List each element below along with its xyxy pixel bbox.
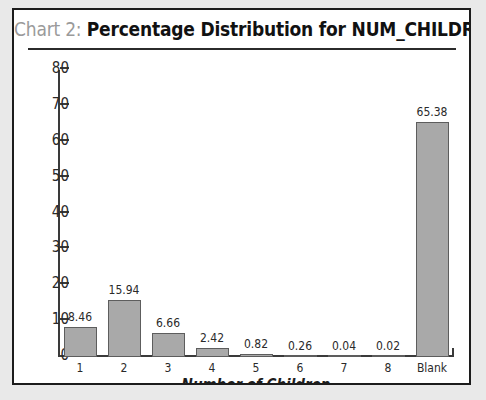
x-axis-label: 3: [146, 361, 190, 375]
bar-value-label: 8.46: [68, 311, 92, 323]
x-axis-label: Blank: [410, 361, 454, 375]
bar-slot: 65.38: [416, 70, 449, 357]
x-axis-label: 8: [366, 361, 410, 375]
bar[interactable]: [328, 355, 361, 357]
bar-value-label: 0.04: [332, 340, 356, 352]
bar-slot: 0.82: [240, 70, 273, 357]
bar-slot: 0.02: [372, 70, 405, 357]
bar-slot: 2.42: [196, 70, 229, 357]
bar[interactable]: [416, 122, 449, 357]
x-axis-label: 1: [58, 361, 102, 375]
x-axis-title: Number of Children: [58, 377, 454, 385]
bar-slot: 8.46: [64, 70, 97, 357]
bar-slot: 6.66: [152, 70, 185, 357]
chart-card: Chart 2: Percentage Distribution for NUM…: [12, 8, 471, 385]
plot-area: 01020304050607080 8.4615.946.662.420.820…: [14, 10, 469, 383]
bar[interactable]: [152, 333, 185, 357]
bar-value-label: 0.26: [288, 340, 312, 352]
bar-value-label: 65.38: [417, 106, 448, 118]
bar-value-label: 0.02: [376, 340, 400, 352]
bar-value-label: 15.94: [109, 284, 140, 296]
bar[interactable]: [240, 354, 273, 357]
bar[interactable]: [196, 348, 229, 357]
bar-value-label: 2.42: [200, 332, 224, 344]
bars-layer: 8.4615.946.662.420.820.260.040.0265.38: [58, 70, 454, 357]
bar[interactable]: [284, 355, 317, 357]
x-axis-label: 2: [102, 361, 146, 375]
bar-value-label: 0.82: [244, 338, 268, 350]
x-axis-label: 5: [234, 361, 278, 375]
bar-slot: 0.04: [328, 70, 361, 357]
bar-slot: 0.26: [284, 70, 317, 357]
x-axis-label: 4: [190, 361, 234, 375]
bar[interactable]: [372, 355, 405, 357]
bar-value-label: 6.66: [156, 317, 180, 329]
bar[interactable]: [108, 300, 141, 357]
x-axis-label: 6: [278, 361, 322, 375]
x-axis-label: 7: [322, 361, 366, 375]
bar-slot: 15.94: [108, 70, 141, 357]
bar[interactable]: [64, 327, 97, 357]
